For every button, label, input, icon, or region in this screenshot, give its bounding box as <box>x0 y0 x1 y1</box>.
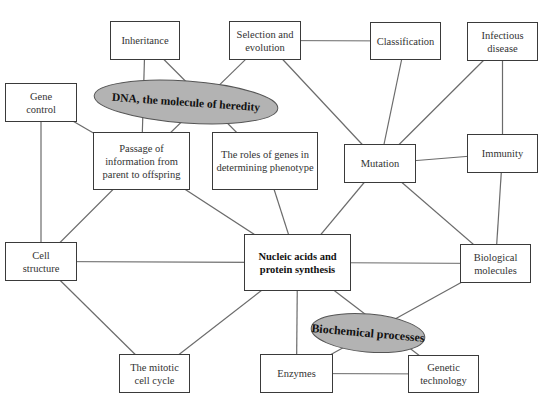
node-classification: Classification <box>370 22 441 60</box>
node-roles-of-genes: The roles of genes in determining phenot… <box>212 132 318 190</box>
node-label: Biological molecules <box>468 251 523 277</box>
node-label: Immunity <box>482 147 523 160</box>
node-genetic-technology: Genetic technology <box>408 355 479 393</box>
node-immunity: Immunity <box>467 134 538 173</box>
node-label: Genetic technology <box>414 361 474 387</box>
node-inheritance: Inheritance <box>110 21 180 60</box>
node-mutation: Mutation <box>344 144 416 183</box>
node-enzymes: Enzymes <box>260 354 333 393</box>
node-label: Selection and evolution <box>235 28 295 54</box>
node-label: Cell structure <box>16 249 66 275</box>
node-label: The mitotic cell cycle <box>127 361 182 387</box>
node-nucleic-acids-protein-synthesis: Nucleic acids and protein synthesis <box>244 234 351 291</box>
node-label: Classification <box>377 35 435 48</box>
node-label: Passage of information from parent to of… <box>98 142 186 181</box>
ellipse-shape <box>310 309 427 357</box>
node-passage-of-information: Passage of information from parent to of… <box>93 132 190 190</box>
ellipse-shape <box>93 75 279 130</box>
node-gene-control: Gene control <box>5 83 77 122</box>
node-cell-structure: Cell structure <box>5 242 77 281</box>
node-label: Infectious disease <box>475 29 530 55</box>
node-mitotic-cell-cycle: The mitotic cell cycle <box>119 354 190 393</box>
node-label: Mutation <box>361 157 400 170</box>
node-label: Enzymes <box>277 367 316 380</box>
node-biological-molecules: Biological molecules <box>460 244 531 283</box>
node-label: Gene control <box>19 90 64 116</box>
node-label: The roles of genes in determining phenot… <box>216 148 314 174</box>
node-selection-and-evolution: Selection and evolution <box>229 21 301 60</box>
connector-lines <box>0 0 553 414</box>
node-label: Nucleic acids and protein synthesis <box>248 250 348 276</box>
node-infectious-disease: Infectious disease <box>467 22 538 61</box>
concept-map: Inheritance Selection and evolution Clas… <box>0 0 553 414</box>
node-label: Inheritance <box>121 34 168 47</box>
